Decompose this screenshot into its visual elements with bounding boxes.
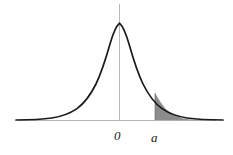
shaded-tail-area [155,93,212,120]
x-axis-label-a: a [151,131,158,144]
normal-distribution-figure: 0 a [0,0,233,155]
x-axis-label-zero: 0 [114,129,121,142]
